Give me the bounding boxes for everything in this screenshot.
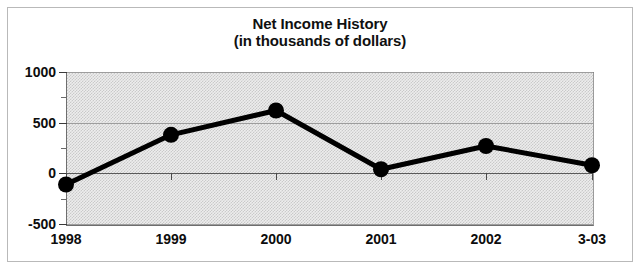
data-point-2001 xyxy=(373,161,389,177)
data-point-1999 xyxy=(163,127,179,143)
plot-wrapper: 1000 500 0 -500 1998 1999 2000 2001 2002… xyxy=(0,0,642,276)
data-point-2002 xyxy=(478,138,494,154)
data-point-1998 xyxy=(58,176,74,192)
series-line-net-income xyxy=(66,111,592,185)
data-point-3-03 xyxy=(584,157,600,173)
data-point-2000 xyxy=(268,103,284,119)
series-layer xyxy=(0,0,642,276)
